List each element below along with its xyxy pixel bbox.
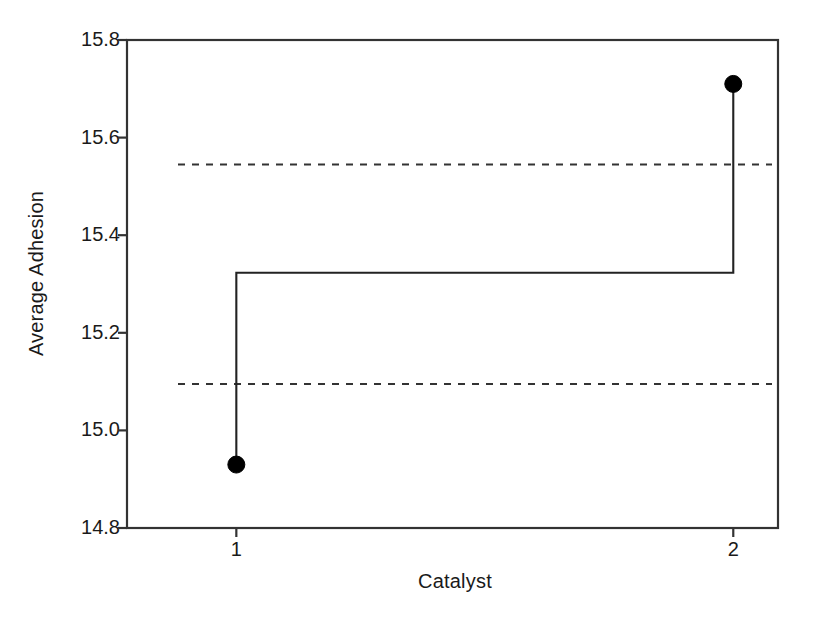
plot-frame <box>127 40 778 528</box>
axis-tick-marks <box>118 40 733 537</box>
data-point-markers <box>228 75 742 473</box>
reference-lines <box>178 164 772 384</box>
main-effects-chart: Average Adhesion Catalyst 15.815.615.415… <box>0 0 816 627</box>
step-path <box>236 84 733 465</box>
plot-canvas <box>0 0 816 627</box>
data-point-marker <box>228 456 245 473</box>
data-point-marker <box>725 75 742 92</box>
data-step-line <box>236 84 733 465</box>
axis-frame <box>127 40 778 528</box>
